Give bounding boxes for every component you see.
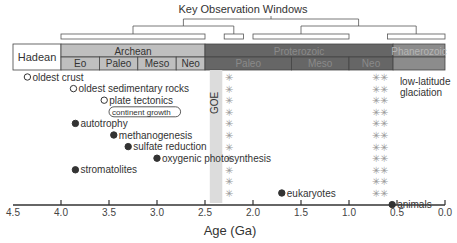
x-axis-label: Age (Ga) bbox=[204, 223, 257, 238]
snowflake-icon: ✳ bbox=[225, 165, 233, 176]
snowflake-icon: ✳ bbox=[225, 72, 233, 83]
goe-shading bbox=[210, 70, 222, 203]
filled-dot-marker bbox=[111, 132, 117, 138]
snowflake-icon: ✳ bbox=[225, 118, 233, 129]
event-label: oldest sedimentary rocks bbox=[78, 83, 189, 94]
event-label: oxygenic photosynthesis bbox=[162, 153, 271, 164]
event-label: sulfate reduction bbox=[133, 141, 206, 152]
event-label: eukaryotes bbox=[287, 188, 336, 199]
x-tick-label: 3.5 bbox=[102, 207, 116, 218]
snowflake-icon: ✳ bbox=[225, 188, 233, 199]
eon-label: Hadean bbox=[18, 51, 57, 63]
era-label: Neo bbox=[181, 58, 200, 69]
bracket-connector bbox=[133, 26, 234, 34]
filled-dot-marker bbox=[279, 190, 285, 196]
eon-label: Archean bbox=[114, 46, 151, 57]
snowflake-icon: ✳ bbox=[225, 176, 233, 187]
event-label: autotrophy bbox=[80, 118, 127, 129]
event-label: continent growth bbox=[112, 108, 171, 117]
snowflake-icon: ✳ bbox=[380, 176, 388, 187]
observation-window bbox=[61, 34, 205, 39]
bracket-connector bbox=[301, 26, 416, 34]
event-label: plate tectonics bbox=[109, 95, 173, 106]
snowflake-icon: ✳ bbox=[380, 153, 388, 164]
snowflake-icon: ✳ bbox=[380, 130, 388, 141]
x-axis: 4.54.03.53.02.52.01.51.00.50.0 bbox=[6, 200, 452, 218]
filled-dot-marker bbox=[72, 167, 78, 173]
snowflake-icon: ✳ bbox=[225, 142, 233, 153]
chart-title: Key Observation Windows bbox=[179, 3, 308, 15]
x-tick-label: 1.0 bbox=[342, 207, 356, 218]
snowflake-icon: ✳ bbox=[380, 84, 388, 95]
eon-label: Proterozoic bbox=[274, 46, 325, 57]
open-dot-marker bbox=[101, 97, 107, 103]
filled-dot-marker bbox=[72, 120, 78, 126]
snowflake-icon: ✳ bbox=[225, 84, 233, 95]
x-tick-label: 1.5 bbox=[294, 207, 308, 218]
bracket-connector-top bbox=[183, 19, 358, 26]
snowflake-icon: ✳ bbox=[225, 107, 233, 118]
era-label: Eo bbox=[74, 58, 87, 69]
observation-window bbox=[224, 34, 243, 39]
x-tick-label: 3.0 bbox=[150, 207, 164, 218]
goe-label: GOE bbox=[209, 92, 220, 115]
observation-window bbox=[387, 34, 445, 39]
snowflake-icon: ✳ bbox=[380, 142, 388, 153]
observation-window bbox=[253, 34, 349, 39]
filled-dot-marker bbox=[125, 143, 131, 149]
x-tick-label: 0.5 bbox=[390, 207, 404, 218]
era-label: Neo bbox=[362, 58, 381, 69]
snowflake-icon: ✳ bbox=[380, 107, 388, 118]
annotation-text: low-latitude bbox=[400, 76, 451, 87]
era-label: Paleo bbox=[235, 58, 261, 69]
x-tick-label: 2.0 bbox=[246, 207, 260, 218]
annotations: low-latitudeglaciation bbox=[400, 76, 451, 99]
snowflake-icon: ✳ bbox=[225, 95, 233, 106]
snowflake-icon: ✳ bbox=[380, 188, 388, 199]
eon-label: Phanerozoic bbox=[391, 46, 447, 57]
x-tick-label: 4.5 bbox=[6, 207, 20, 218]
event-label: oldest crust bbox=[32, 72, 83, 83]
geologic-timeline-diagram: Key Observation Windows HadeanArcheanPro… bbox=[0, 0, 457, 243]
open-dot-marker bbox=[70, 85, 76, 91]
filled-dot-marker bbox=[154, 155, 160, 161]
event-label: stromatolites bbox=[80, 164, 137, 175]
snowflake-icon: ✳ bbox=[380, 95, 388, 106]
x-tick-label: 0.0 bbox=[438, 207, 452, 218]
event-label: methanogenesis bbox=[119, 130, 192, 141]
snowflake-icon: ✳ bbox=[380, 72, 388, 83]
annotation-text: glaciation bbox=[400, 87, 442, 98]
observation-window-brackets bbox=[61, 16, 445, 39]
x-tick-label: 4.0 bbox=[54, 207, 68, 218]
era-label: Meso bbox=[308, 58, 333, 69]
open-dot-marker bbox=[24, 74, 30, 80]
x-tick-label: 2.5 bbox=[198, 207, 212, 218]
era-label: Paleo bbox=[106, 58, 132, 69]
goe-band: GOE bbox=[209, 70, 222, 203]
snowflake-icon: ✳ bbox=[380, 118, 388, 129]
era-label: Meso bbox=[145, 58, 170, 69]
era-bar: EoPaleoMesoNeoPaleoMesoNeo bbox=[61, 57, 445, 70]
era-cell bbox=[393, 57, 445, 70]
glaciation-markers: ✳✳✳✳✳✳✳✳✳✳✳✳✳✳✳✳✳✳✳✳✳✳✳✳✳✳✳✳✳✳✳✳✳ bbox=[225, 72, 387, 199]
snowflake-icon: ✳ bbox=[225, 130, 233, 141]
snowflake-icon: ✳ bbox=[380, 165, 388, 176]
